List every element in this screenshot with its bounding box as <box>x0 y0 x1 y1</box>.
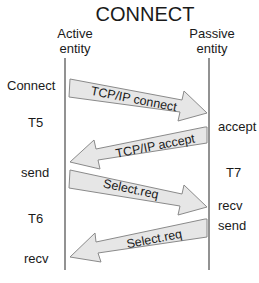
passive-entity-header-line2: entity <box>196 41 228 56</box>
message-label: TCP/IP accept <box>114 131 196 160</box>
left-label-t5: T5 <box>28 115 43 130</box>
message-arrow-select-req-2: Select.req <box>70 219 207 262</box>
message-label: TCP/IP connect <box>90 84 179 115</box>
left-label-recv: recv <box>24 251 49 266</box>
right-label-t7: T7 <box>226 165 241 180</box>
active-entity-header-line1: Active <box>57 26 92 41</box>
right-label-recv: recv <box>218 198 243 213</box>
right-label-send: send <box>218 218 246 233</box>
passive-entity-header-line1: Passive <box>189 26 235 41</box>
message-arrow-select-req-1: Select.req <box>69 170 207 215</box>
message-arrow-tcpip-connect: TCP/IP connect <box>69 79 207 121</box>
diagram-title: CONNECT <box>96 3 195 25</box>
left-label-connect: Connect <box>7 78 56 93</box>
sequence-diagram: CONNECT Active entity Passive entity Con… <box>0 0 259 283</box>
left-label-send: send <box>21 165 49 180</box>
left-label-t6: T6 <box>28 211 43 226</box>
active-entity-header-line2: entity <box>59 41 91 56</box>
message-arrow-tcpip-accept: TCP/IP accept <box>70 127 207 169</box>
right-label-accept: accept <box>218 119 257 134</box>
